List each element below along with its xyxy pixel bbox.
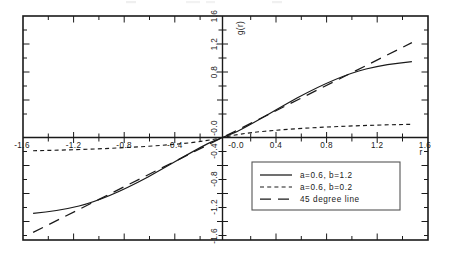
y-tick-labels: 1.6 1.2 0.8 -0.0 -0.4 -0.8 -1.2 -1.6: [210, 10, 219, 244]
y-axis-title: g(r): [235, 21, 245, 35]
x-tick-label: 0.8: [320, 141, 333, 150]
y-tick-label: -1.2: [210, 199, 219, 215]
y-tick-label: -0.4: [210, 143, 219, 159]
y-tick-label: 1.2: [210, 38, 219, 51]
x-tick-label: -1.2: [66, 141, 82, 150]
y-tick-label: 1.6: [210, 10, 219, 23]
y-tick-label: -0.0: [210, 120, 219, 136]
legend-label: 45 degree line: [300, 195, 360, 204]
x-tick-label: -0.4: [167, 141, 183, 150]
legend[interactable]: a=0.6, b=1.2 a=0.6, b=0.2 45 degree line: [252, 162, 400, 210]
figure-container: -1.6 -1.2 -0.8 -0.4 -0.0 0.4 0.8 1.2 1.6…: [0, 0, 450, 256]
y-tick-label: 0.8: [210, 66, 219, 79]
legend-label: a=0.6, b=0.2: [300, 183, 353, 192]
x-tick-label: -0.8: [116, 141, 132, 150]
x-tick-label: -0.0: [228, 141, 244, 150]
canvas-background: [0, 0, 450, 256]
chart-canvas: -1.6 -1.2 -0.8 -0.4 -0.0 0.4 0.8 1.2 1.6…: [0, 0, 450, 256]
x-tick-label: -1.6: [14, 141, 30, 150]
legend-label: a=0.6, b=1.2: [300, 171, 353, 180]
y-tick-label: -1.6: [210, 228, 219, 244]
y-tick-label: -0.8: [210, 171, 219, 187]
x-axis-title: r: [419, 147, 422, 157]
x-tick-label: 1.2: [371, 141, 384, 150]
x-tick-label: 0.4: [270, 141, 283, 150]
